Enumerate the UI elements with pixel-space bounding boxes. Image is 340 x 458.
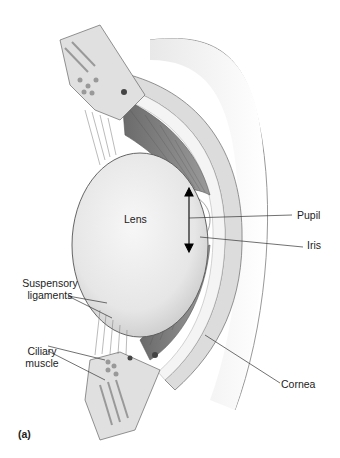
suspensory-ligaments-label: Suspensory ligaments bbox=[20, 277, 80, 301]
suspensory-label-line2: ligaments bbox=[28, 289, 73, 301]
ciliary-label-line2: muscle bbox=[25, 357, 58, 369]
iris-label: Iris bbox=[307, 239, 321, 251]
lens-label: Lens bbox=[124, 213, 147, 225]
pupil-label: Pupil bbox=[297, 209, 320, 221]
cornea-label: Cornea bbox=[281, 378, 315, 390]
ciliary-muscle-label: Ciliary muscle bbox=[22, 345, 62, 369]
ciliary-label-line1: Ciliary bbox=[27, 345, 56, 357]
ciliary-body-lower bbox=[85, 352, 160, 440]
panel-label: (a) bbox=[18, 428, 31, 440]
ciliary-body-upper bbox=[60, 25, 145, 120]
suspensory-label-line1: Suspensory bbox=[22, 277, 77, 289]
